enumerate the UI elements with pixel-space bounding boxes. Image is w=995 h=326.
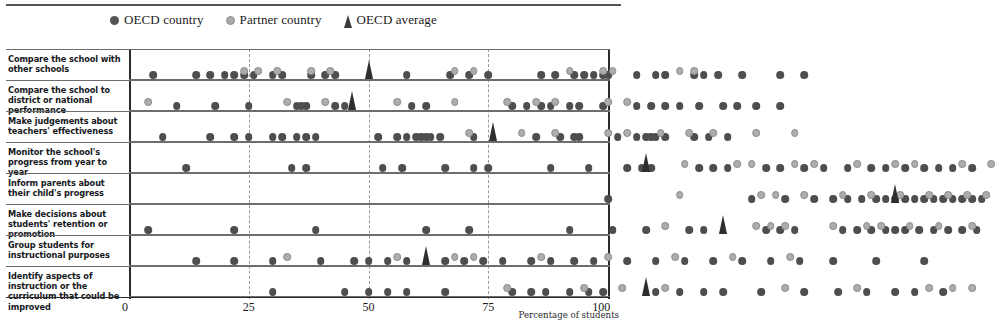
data-point-oecd xyxy=(920,257,928,265)
data-point-partner xyxy=(757,191,765,199)
data-point-partner xyxy=(552,129,560,137)
data-point-partner xyxy=(959,160,967,168)
data-point-partner xyxy=(676,191,684,199)
data-point-partner xyxy=(791,129,799,137)
data-point-oecd xyxy=(532,133,540,141)
data-point-partner xyxy=(393,253,401,261)
data-point-oecd xyxy=(211,102,219,110)
data-point-oecd xyxy=(245,102,253,110)
data-point-oecd xyxy=(777,164,785,172)
data-point-oecd xyxy=(868,164,876,172)
data-point-oecd xyxy=(719,102,727,110)
data-point-oecd xyxy=(882,195,890,203)
data-point-oecd xyxy=(207,71,215,79)
data-point-partner xyxy=(623,129,631,137)
data-point-oecd xyxy=(968,164,976,172)
data-point-oecd xyxy=(403,257,411,265)
data-point-oecd xyxy=(738,257,746,265)
data-point-oecd xyxy=(810,195,818,203)
row-separator-5 xyxy=(6,173,610,174)
data-point-partner xyxy=(748,160,756,168)
data-point-oecd xyxy=(916,226,924,234)
data-point-partner xyxy=(839,191,847,199)
data-point-oecd xyxy=(231,226,239,234)
data-point-oecd xyxy=(777,102,785,110)
data-point-oecd xyxy=(269,288,277,296)
data-point-oecd xyxy=(738,71,746,79)
data-point-oecd xyxy=(547,164,555,172)
data-point-oecd xyxy=(935,164,943,172)
data-point-oecd xyxy=(686,226,694,234)
data-point-oecd xyxy=(801,71,809,79)
data-point-partner xyxy=(657,129,665,137)
data-point-oecd xyxy=(757,288,765,296)
data-point-oecd xyxy=(944,226,952,234)
data-point-partner xyxy=(772,191,780,199)
data-point-oecd xyxy=(719,288,727,296)
data-point-partner xyxy=(662,222,670,230)
data-point-partner xyxy=(949,284,957,292)
data-point-partner xyxy=(863,222,871,230)
category-label-column: Compare the school with other schoolsCom… xyxy=(6,49,129,299)
data-point-partner xyxy=(451,253,459,261)
data-point-oecd xyxy=(604,195,612,203)
oecd-country-marker-icon xyxy=(110,16,119,25)
data-point-oecd xyxy=(566,226,574,234)
data-point-oecd xyxy=(762,164,770,172)
data-point-oecd xyxy=(537,71,545,79)
data-point-oecd xyxy=(700,71,708,79)
data-point-oecd xyxy=(700,288,708,296)
data-point-oecd xyxy=(484,71,492,79)
data-point-partner xyxy=(518,129,526,137)
data-point-oecd xyxy=(427,133,435,141)
x-tick-label-0: 0 xyxy=(122,300,128,315)
data-point-oecd xyxy=(499,257,507,265)
data-point-oecd xyxy=(192,71,200,79)
data-point-partner xyxy=(566,67,574,75)
data-point-partner xyxy=(729,253,737,261)
data-point-partner xyxy=(963,191,971,199)
row-separator-1 xyxy=(6,49,610,50)
oecd-average-marker xyxy=(422,246,430,265)
data-point-partner xyxy=(753,129,761,137)
data-point-oecd xyxy=(791,226,799,234)
data-point-oecd xyxy=(437,133,445,141)
oecd-average-marker xyxy=(642,153,650,172)
data-point-oecd xyxy=(662,71,670,79)
data-point-oecd xyxy=(585,164,593,172)
data-point-oecd xyxy=(302,133,310,141)
x-tick-label-25: 25 xyxy=(243,300,255,315)
oecd-average-marker xyxy=(489,122,497,141)
data-point-oecd xyxy=(365,257,373,265)
data-point-partner xyxy=(853,160,861,168)
data-point-oecd xyxy=(901,164,909,172)
data-row-6 xyxy=(129,204,610,235)
data-point-partner xyxy=(892,160,900,168)
data-point-oecd xyxy=(590,71,598,79)
legend-item-oecd-country: OECD country xyxy=(110,12,204,28)
oecd-average-marker xyxy=(642,277,650,296)
data-row-1 xyxy=(129,49,610,80)
row-separator-6 xyxy=(6,204,610,205)
data-point-partner xyxy=(676,67,684,75)
data-point-oecd xyxy=(278,133,286,141)
oecd-average-marker xyxy=(348,91,356,110)
data-point-oecd xyxy=(633,71,641,79)
data-point-oecd xyxy=(422,226,430,234)
data-point-partner xyxy=(710,129,718,137)
data-point-oecd xyxy=(183,164,191,172)
x-tick-label-75: 75 xyxy=(482,300,494,315)
row-separator-2 xyxy=(6,80,610,81)
data-point-oecd xyxy=(341,288,349,296)
data-point-oecd xyxy=(777,71,785,79)
top-rule xyxy=(6,4,621,6)
data-point-oecd xyxy=(676,288,684,296)
data-point-oecd xyxy=(231,71,239,79)
data-point-oecd xyxy=(892,226,900,234)
data-point-oecd xyxy=(767,257,775,265)
oecd-average-marker xyxy=(719,215,727,234)
x-tick-label-50: 50 xyxy=(363,300,375,315)
data-point-oecd xyxy=(710,257,718,265)
x-axis-caption: Percentage of students xyxy=(519,310,619,320)
data-point-oecd xyxy=(872,257,880,265)
